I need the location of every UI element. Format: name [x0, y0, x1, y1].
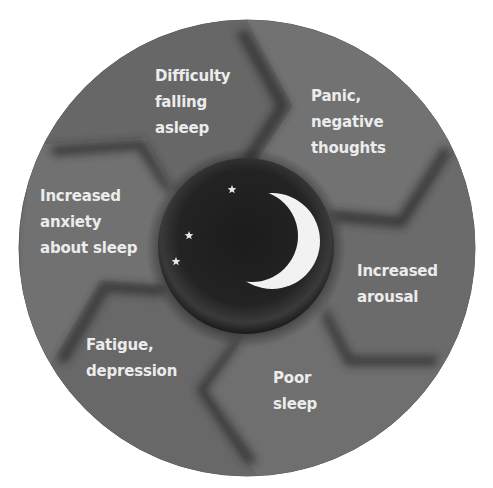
- label-poor-sleep: Poor sleep: [273, 365, 317, 417]
- label-increased-arousal: Increased arousal: [357, 258, 438, 310]
- label-fatigue-depression: Fatigue, depression: [86, 332, 177, 384]
- label-difficulty-falling-asleep: Difficulty falling asleep: [155, 63, 230, 141]
- label-panic-negative-thoughts: Panic, negative thoughts: [311, 83, 386, 161]
- label-increased-anxiety-about-sleep: Increased anxiety about sleep: [40, 183, 137, 261]
- moon-icon: [224, 193, 320, 289]
